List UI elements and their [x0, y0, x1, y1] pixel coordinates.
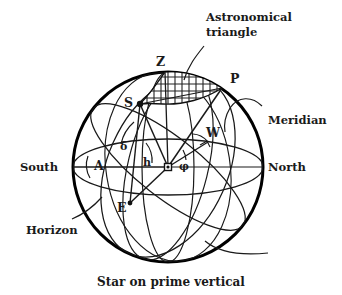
label-west: W	[205, 125, 221, 140]
label-east: E	[117, 200, 127, 215]
label-altitude: h	[143, 156, 151, 169]
label-horizon: Horizon	[26, 223, 78, 237]
label-azimuth: A	[93, 158, 104, 173]
figure-caption: Star on prime vertical	[97, 275, 245, 289]
label-south: South	[20, 160, 59, 174]
origin-dot	[166, 165, 169, 168]
star-point-marker	[137, 101, 143, 107]
celestial-sphere-diagram: Astronomical triangle Z P S W E A δ h φ …	[0, 0, 342, 295]
celestial-sphere-figure: Astronomical triangle Z P S W E A δ h φ …	[0, 0, 342, 295]
label-meridian: Meridian	[268, 113, 327, 127]
label-latitude: φ	[179, 160, 189, 173]
label-zenith: Z	[156, 54, 165, 69]
label-north: North	[268, 160, 307, 174]
label-pole: P	[230, 71, 240, 86]
label-declination: δ	[120, 140, 127, 153]
east-point-marker	[128, 201, 133, 206]
annotation-line1: Astronomical	[205, 10, 292, 24]
label-star: S	[124, 95, 133, 110]
annotation-line2: triangle	[206, 25, 257, 39]
